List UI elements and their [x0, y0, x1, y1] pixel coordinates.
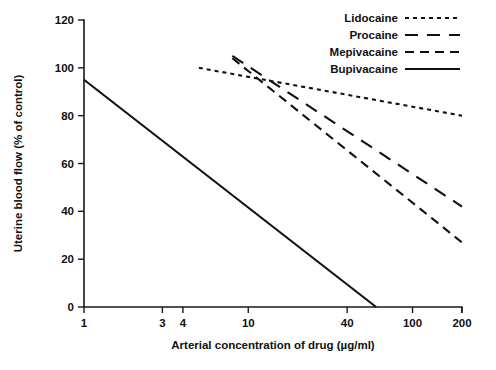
uterine-blood-flow-chart: 0204060801001201341040100200 LidocainePr…	[0, 0, 496, 370]
y-tick-label: 80	[61, 110, 74, 122]
series-line-procaine	[232, 56, 462, 207]
y-tick-label: 120	[55, 14, 74, 26]
x-tick-label: 200	[452, 317, 471, 329]
legend-label-mepivacaine: Mepivacaine	[330, 46, 398, 58]
y-axis-title: Uterine blood flow (% of control)	[12, 75, 24, 253]
series-layer	[84, 56, 462, 307]
y-tick-label: 20	[61, 253, 74, 265]
y-tick-label: 60	[61, 158, 74, 170]
legend-label-lidocaine: Lidocaine	[344, 12, 398, 24]
axis-spine	[84, 20, 462, 307]
axes-layer: 0204060801001201341040100200	[55, 14, 472, 329]
chart-figure: 0204060801001201341040100200 LidocainePr…	[0, 0, 496, 370]
x-axis-title: Arterial concentration of drug (µg/ml)	[171, 339, 375, 351]
legend-label-bupivacaine: Bupivacaine	[330, 63, 398, 75]
x-tick-label: 10	[242, 317, 255, 329]
x-tick-label: 100	[403, 317, 422, 329]
series-line-lidocaine	[199, 68, 462, 116]
x-tick-label: 40	[341, 317, 354, 329]
y-tick-label: 100	[55, 62, 74, 74]
x-tick-label: 3	[159, 317, 165, 329]
y-tick-label: 40	[61, 205, 74, 217]
series-line-mepivacaine	[232, 58, 462, 242]
legend-label-procaine: Procaine	[349, 29, 398, 41]
series-line-bupivacaine	[84, 80, 376, 307]
y-tick-label: 0	[68, 301, 74, 313]
x-tick-label: 1	[81, 317, 88, 329]
legend-layer: LidocaineProcaineMepivacaineBupivacaine	[330, 12, 460, 75]
x-tick-label: 4	[180, 317, 187, 329]
